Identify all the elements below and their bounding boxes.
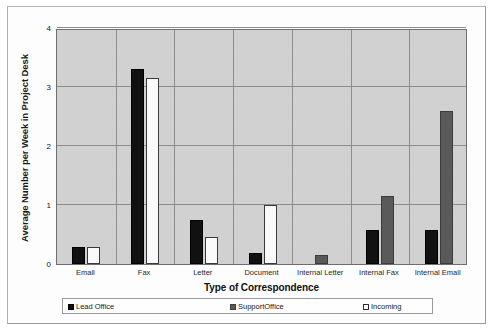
y-tick-label: 1	[35, 202, 51, 210]
bar	[440, 111, 453, 264]
bar	[249, 253, 262, 264]
x-tick-label: Internal Fax	[350, 268, 409, 278]
bar	[205, 237, 218, 264]
x-axis-tick-labels: EmailFaxLetterDocumentInternal LetterInt…	[56, 268, 467, 280]
x-tick-label: Internal Email	[408, 268, 467, 278]
bar	[190, 220, 203, 264]
bar	[131, 69, 144, 264]
legend-item: Lead Office	[68, 301, 114, 312]
bar	[72, 247, 85, 264]
gridline-horizontal	[57, 27, 466, 28]
y-tick-label: 3	[35, 84, 51, 92]
bar	[315, 255, 328, 264]
bar	[381, 196, 394, 264]
bar	[87, 247, 100, 264]
y-tick-label: 0	[35, 261, 51, 269]
legend-label: SupportOffice	[238, 302, 284, 311]
bar-chart-figure: Average Number per Week in Project Desk …	[0, 0, 495, 333]
y-axis-title: Average Number per Week in Project Desk	[18, 30, 32, 266]
x-tick-label: Internal Letter	[291, 268, 350, 278]
chart-legend: Lead OfficeSupportOfficeIncoming	[62, 298, 433, 314]
x-tick-label: Document	[232, 268, 291, 278]
x-tick-label: Letter	[173, 268, 232, 278]
bar	[366, 230, 379, 264]
bar	[425, 230, 438, 264]
bar	[146, 78, 159, 264]
plot-area	[56, 29, 467, 265]
legend-item: Incoming	[363, 301, 401, 312]
bar	[264, 205, 277, 264]
x-tick-label: Fax	[115, 268, 174, 278]
legend-swatch-support-icon	[230, 304, 236, 310]
legend-label: Incoming	[371, 302, 401, 311]
bars-layer	[57, 30, 466, 264]
y-tick-label: 4	[35, 25, 51, 33]
legend-swatch-incoming-icon	[363, 304, 369, 310]
x-tick-label: Email	[56, 268, 115, 278]
x-axis-title: Type of Correspondence	[56, 282, 467, 293]
y-tick-label: 2	[35, 143, 51, 151]
legend-swatch-lead-icon	[68, 304, 74, 310]
legend-item: SupportOffice	[230, 301, 284, 312]
legend-label: Lead Office	[76, 302, 114, 311]
